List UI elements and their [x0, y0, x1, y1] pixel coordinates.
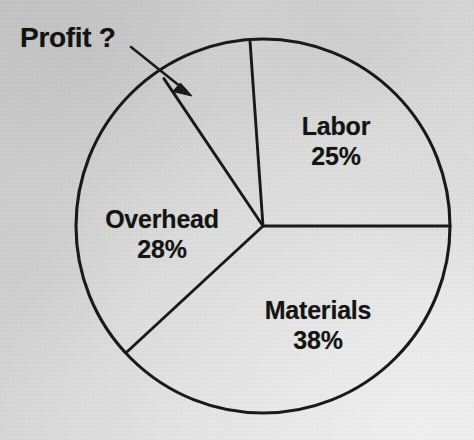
slice-label-materials: Materials 38% — [238, 296, 398, 355]
profit-annotation-label: Profit ? — [20, 22, 116, 54]
slice-label-overhead: Overhead 28% — [82, 205, 242, 264]
slice-label-labor-name: Labor — [276, 112, 396, 142]
slice-label-materials-name: Materials — [238, 296, 398, 326]
pie-chart-figure: Profit ? Labor 25% Materials 38% Overhea… — [0, 0, 474, 440]
slice-label-overhead-percent: 28% — [82, 235, 242, 265]
slice-label-overhead-name: Overhead — [82, 205, 242, 235]
slice-label-materials-percent: 38% — [238, 326, 398, 356]
slice-label-labor: Labor 25% — [276, 112, 396, 171]
slice-label-labor-percent: 25% — [276, 142, 396, 172]
